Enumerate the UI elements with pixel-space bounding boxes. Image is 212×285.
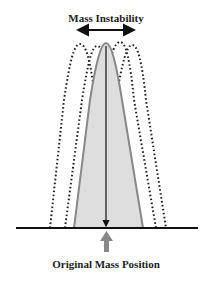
diagram-caption: Original Mass Position [0,258,212,270]
diagram-canvas [0,0,212,285]
original-mass-shape [74,43,143,228]
original-position-arrow [100,231,113,252]
